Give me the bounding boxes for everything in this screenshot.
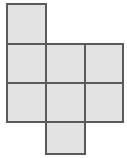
face-upper-left: [7, 44, 46, 83]
face-top: [7, 4, 46, 44]
face-upper-middle: [46, 44, 85, 83]
cube-net-faces-group: [7, 4, 123, 154]
face-lower-left: [7, 83, 46, 122]
face-lower-middle: [46, 83, 85, 122]
cube-net-figure: [0, 0, 127, 158]
face-upper-right: [85, 44, 123, 83]
face-bottom: [46, 122, 85, 154]
face-lower-right: [85, 83, 123, 122]
cube-net-svg: [0, 0, 127, 158]
